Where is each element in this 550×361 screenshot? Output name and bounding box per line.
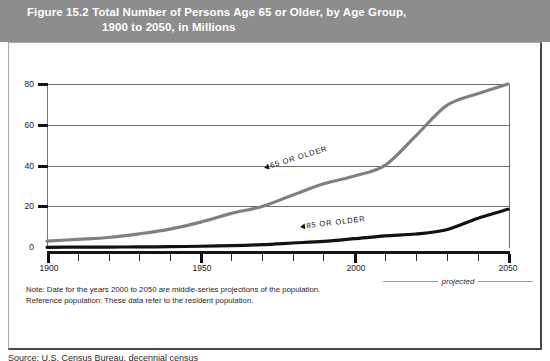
figure-title-line2: 1900 to 2050, in Millions [27,20,527,35]
right-axis-line [509,84,510,248]
figure-source: Source: U.S. Census Bureau, decennial ce… [8,353,198,361]
x-tick-1920 [109,254,110,261]
x-tick-1970 [262,254,263,261]
y-tick-label-60: 60 [0,120,34,130]
x-tick-label-1900: 1900 [40,263,59,273]
x-tick-2010 [385,254,386,261]
projected-rule-right [478,281,533,282]
y-tick-label-0: 0 [0,242,34,252]
x-tick-2030 [447,254,448,261]
x-tick-label-1950: 1950 [193,263,212,273]
x-tick-1930 [139,254,140,261]
x-axis-line [47,251,510,254]
figure-title-line1: Total Number of Persons Age 65 or Older,… [92,6,406,18]
figure-notes: Note: Date for the years 2000 to 2050 ar… [26,285,320,306]
x-tick-label-2050: 2050 [499,263,518,273]
x-tick-1910 [78,254,79,261]
gridline-80 [48,84,509,85]
gridline-20 [48,206,509,207]
triangle-left-icon [300,223,306,230]
projected-label: projected [442,277,475,286]
y-tick-mark-60 [38,124,48,127]
x-tick-1960 [231,254,232,261]
projected-range-marker: projected [383,275,533,287]
projected-rule-left [383,281,438,282]
x-tick-2040 [478,254,479,261]
y-tick-label-80: 80 [0,79,34,89]
x-tick-2050 [508,254,511,263]
figure-container: Figure 15.2 Total Number of Persons Age … [0,0,550,361]
x-tick-1990 [323,254,324,261]
x-tick-1900 [47,254,50,263]
x-tick-label-2000: 2000 [347,263,366,273]
x-tick-1980 [293,254,294,261]
y-tick-label-40: 40 [0,161,34,171]
y-tick-mark-40 [38,165,48,168]
y-tick-mark-80 [38,83,48,86]
y-tick-label-20: 20 [0,201,34,211]
gridline-60 [48,125,509,126]
figure-header-band: Figure 15.2 Total Number of Persons Age … [0,0,550,42]
y-tick-mark-20 [38,205,48,208]
triangle-left-icon [263,164,270,171]
x-tick-2000 [354,254,357,263]
figure-title: Figure 15.2 Total Number of Persons Age … [27,5,527,35]
x-tick-2020 [416,254,417,261]
note-line-2: Reference population: These data refer t… [26,296,320,307]
x-tick-1950 [200,254,203,263]
figure-number: Figure 15.2 [27,6,89,18]
note-line-1: Note: Date for the years 2000 to 2050 ar… [26,285,320,296]
x-tick-1940 [170,254,171,261]
